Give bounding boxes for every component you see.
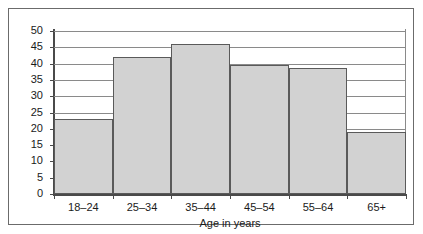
x-tick-mark — [347, 195, 348, 199]
y-tick-mark — [50, 80, 54, 81]
x-tick-mark — [289, 195, 290, 199]
chart-frame: 05101520253035404550 18–2425–3435–4445–5… — [8, 8, 414, 225]
x-tick-mark — [113, 195, 114, 199]
y-tick-label: 10 — [17, 155, 43, 166]
x-tick-label: 65+ — [347, 201, 406, 213]
x-tick-label: 25–34 — [113, 201, 172, 213]
y-tick-label: 45 — [17, 41, 43, 52]
bar — [113, 57, 172, 194]
y-tick-mark — [50, 47, 54, 48]
bar — [171, 44, 230, 194]
x-tick-mark — [230, 195, 231, 199]
bar — [230, 65, 289, 194]
x-tick-mark — [171, 195, 172, 199]
y-tick-mark — [50, 31, 54, 32]
x-tick-label: 35–44 — [171, 201, 230, 213]
y-tick-label: 15 — [17, 139, 43, 150]
chart-figure: 05101520253035404550 18–2425–3435–4445–5… — [0, 0, 423, 234]
y-tick-label: 5 — [17, 172, 43, 183]
y-tick-mark — [50, 113, 54, 114]
bar — [289, 68, 348, 194]
x-tick-label: 18–24 — [54, 201, 113, 213]
y-tick-label: 40 — [17, 58, 43, 69]
bar — [347, 132, 406, 194]
y-tick-mark — [50, 64, 54, 65]
y-tick-label: 25 — [17, 107, 43, 118]
y-tick-label: 0 — [17, 188, 43, 199]
x-tick-mark — [406, 195, 407, 199]
gridline — [54, 31, 406, 32]
gridline — [54, 47, 406, 48]
bar — [54, 119, 113, 194]
y-tick-label: 30 — [17, 90, 43, 101]
x-axis-title: Age in years — [54, 217, 406, 229]
y-tick-label: 35 — [17, 74, 43, 85]
y-tick-label: 20 — [17, 123, 43, 134]
y-tick-mark — [50, 96, 54, 97]
x-tick-mark — [54, 195, 55, 199]
y-tick-label: 50 — [17, 25, 43, 36]
x-tick-label: 55–64 — [289, 201, 348, 213]
x-tick-label: 45–54 — [230, 201, 289, 213]
